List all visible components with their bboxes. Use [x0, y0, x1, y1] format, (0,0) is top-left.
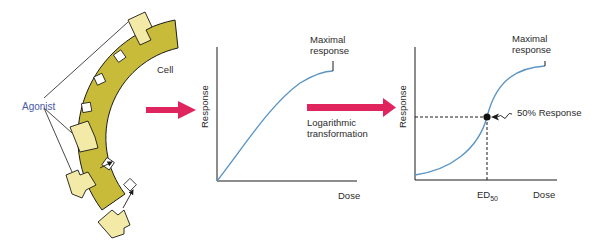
max-annotation-line2: response: [310, 45, 349, 56]
pointer-arrow-icon: [491, 113, 512, 120]
agonist-free-2: [98, 210, 130, 238]
x-axis-label: Dose: [338, 190, 360, 201]
cell-label: Cell: [157, 64, 173, 75]
max-annotation-line1: Maximal: [512, 33, 547, 44]
arrow-to-graph: [146, 101, 196, 119]
y-axis-label: Response: [397, 85, 408, 128]
max-annotation-line1: Maximal: [310, 34, 345, 45]
transform-label-line1: Logarithmic: [307, 117, 356, 128]
graph-log: 50% Response Maximal response Response D…: [397, 33, 581, 202]
y-axis-label: Response: [199, 85, 210, 128]
arrow-log-transform: [307, 98, 396, 117]
figure-canvas: Agonist Cell Maximal response Response D…: [0, 0, 607, 244]
cell-panel: Agonist Cell: [22, 12, 178, 238]
sigmoid-curve: [415, 66, 545, 175]
transform-label-line2: transformation: [307, 128, 368, 139]
agonist-label: Agonist: [22, 101, 56, 112]
ed50-point: [483, 113, 490, 120]
ed50-label: ED50: [477, 189, 498, 202]
half-response-label: 50% Response: [517, 107, 581, 118]
max-annotation-line2: response: [512, 44, 551, 55]
x-axis-label: Dose: [533, 189, 555, 200]
